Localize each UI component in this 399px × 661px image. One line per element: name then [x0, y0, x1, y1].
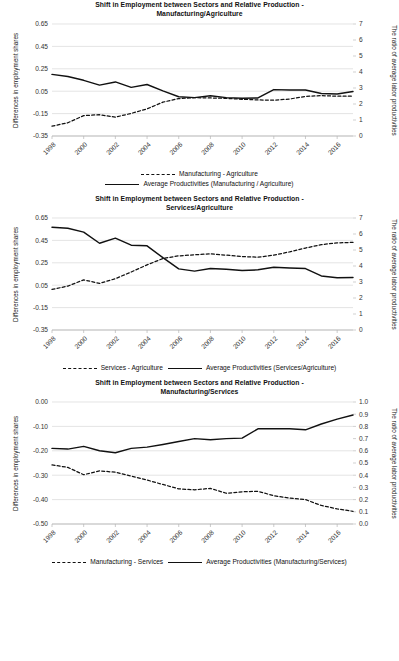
svg-text:2008: 2008 [200, 335, 216, 351]
figure-page: Shift in Employment between Sectors and … [0, 0, 399, 661]
svg-text:2002: 2002 [105, 141, 121, 157]
svg-text:5: 5 [359, 246, 363, 253]
svg-text:7: 7 [359, 20, 363, 27]
plot-area-2: -0.35-0.150.050.250.450.6501234567199820… [0, 212, 399, 362]
svg-text:2008: 2008 [200, 529, 216, 545]
legend-3-item-dashed: Manufacturing - Services [52, 557, 163, 567]
svg-text:5: 5 [359, 52, 363, 59]
dashed-line-swatch-icon [141, 174, 175, 175]
svg-text:1998: 1998 [41, 335, 57, 351]
chart-block-3: Shift in Employment between Sectors and … [0, 378, 399, 567]
legend-3: Manufacturing - Services Average Product… [0, 557, 399, 567]
svg-text:7: 7 [359, 214, 363, 221]
svg-text:0.2: 0.2 [359, 496, 368, 503]
legend-1-item-solid: Average Productivities (Manufacturing / … [105, 179, 293, 189]
svg-text:0.0: 0.0 [359, 520, 368, 527]
svg-text:0.65: 0.65 [35, 214, 48, 221]
svg-text:6: 6 [359, 36, 363, 43]
plot-area-1: -0.35-0.150.050.250.450.6501234567199820… [0, 18, 399, 168]
svg-text:0: 0 [359, 326, 363, 333]
svg-text:0.5: 0.5 [359, 459, 368, 466]
svg-text:0.1: 0.1 [359, 508, 368, 515]
svg-text:2006: 2006 [168, 335, 184, 351]
dashed-line-swatch-icon [52, 562, 86, 563]
svg-text:2014: 2014 [295, 335, 311, 351]
svg-text:0: 0 [359, 132, 363, 139]
plot-area-3: -0.50-0.40-0.30-0.20-0.100.000.00.10.20.… [0, 396, 399, 556]
right-axis-title: The ratio of average labor productivitie… [391, 218, 398, 330]
svg-text:2012: 2012 [263, 335, 279, 351]
svg-text:6: 6 [359, 230, 363, 237]
legend-2-row-1: Services - Agriculture Average Productiv… [0, 363, 399, 373]
svg-text:0.45: 0.45 [35, 43, 48, 50]
chart-block-1: Shift in Employment between Sectors and … [0, 0, 399, 189]
svg-text:-0.10: -0.10 [33, 423, 48, 430]
left-axis-title: Differences in employment shares [12, 402, 19, 524]
chart-title-3-line2: Manufacturing/Services [0, 387, 399, 396]
svg-text:1.0: 1.0 [359, 398, 368, 405]
svg-text:2016: 2016 [327, 335, 343, 351]
dashed-line-swatch-icon [63, 368, 97, 369]
legend-2: Services - Agriculture Average Productiv… [0, 363, 399, 373]
svg-text:2002: 2002 [105, 335, 121, 351]
svg-text:2004: 2004 [136, 141, 152, 157]
svg-text:2000: 2000 [73, 141, 89, 157]
legend-1-row-2: Average Productivities (Manufacturing / … [0, 179, 399, 189]
svg-text:2012: 2012 [263, 529, 279, 545]
svg-text:-0.35: -0.35 [33, 326, 48, 333]
svg-text:2004: 2004 [136, 335, 152, 351]
svg-text:0.05: 0.05 [35, 282, 48, 289]
svg-text:-0.15: -0.15 [33, 304, 48, 311]
chart-title-2-line1: Shift in Employment between Sectors and … [0, 194, 399, 203]
chart-title-3: Shift in Employment between Sectors and … [0, 378, 399, 396]
svg-text:2012: 2012 [263, 141, 279, 157]
legend-1-label-solid: Average Productivities (Manufacturing / … [143, 179, 293, 189]
svg-text:2: 2 [359, 100, 363, 107]
svg-text:0.3: 0.3 [359, 484, 368, 491]
svg-text:2006: 2006 [168, 529, 184, 545]
svg-text:2010: 2010 [231, 141, 247, 157]
svg-text:0.8: 0.8 [359, 423, 368, 430]
legend-1-label-dashed: Manufacturing - Agriculture [179, 169, 258, 179]
svg-text:2014: 2014 [295, 529, 311, 545]
legend-1-row-1: Manufacturing - Agriculture [0, 169, 399, 179]
chart-title-1-line1: Shift in Employment between Sectors and … [0, 0, 399, 9]
svg-text:0.4: 0.4 [359, 472, 368, 479]
legend-3-item-solid: Average Productivities (Manufacturing/Se… [168, 557, 347, 567]
svg-text:-0.35: -0.35 [33, 132, 48, 139]
svg-text:0.25: 0.25 [35, 65, 48, 72]
legend-2-item-solid: Average Productivities (Services/Agricul… [168, 363, 336, 373]
legend-3-label-dashed: Manufacturing - Services [90, 557, 163, 567]
chart-title-1: Shift in Employment between Sectors and … [0, 0, 399, 18]
svg-text:1: 1 [359, 116, 363, 123]
svg-text:0.7: 0.7 [359, 435, 368, 442]
chart-title-3-line1: Shift in Employment between Sectors and … [0, 378, 399, 387]
legend-2-label-dashed: Services - Agriculture [101, 363, 163, 373]
plot-svg-1: -0.35-0.150.050.250.450.6501234567199820… [0, 18, 399, 168]
solid-line-swatch-icon [168, 368, 202, 369]
plot-svg-2: -0.35-0.150.050.250.450.6501234567199820… [0, 212, 399, 362]
svg-text:-0.40: -0.40 [33, 496, 48, 503]
svg-text:0.65: 0.65 [35, 20, 48, 27]
chart-title-1-line2: Manufacturing/Agriculture [0, 9, 399, 18]
solid-line-swatch-icon [105, 184, 139, 185]
chart-title-2-line2: Services/Agriculture [0, 203, 399, 212]
legend-3-row-1: Manufacturing - Services Average Product… [0, 557, 399, 567]
legend-1: Manufacturing - Agriculture Average Prod… [0, 169, 399, 189]
svg-text:-0.20: -0.20 [33, 447, 48, 454]
svg-text:2016: 2016 [327, 141, 343, 157]
svg-text:2016: 2016 [327, 529, 343, 545]
svg-text:0.00: 0.00 [35, 398, 48, 405]
svg-text:4: 4 [359, 262, 363, 269]
legend-2-label-solid: Average Productivities (Services/Agricul… [206, 363, 336, 373]
legend-3-label-solid: Average Productivities (Manufacturing/Se… [206, 557, 347, 567]
svg-text:0.25: 0.25 [35, 259, 48, 266]
svg-text:2: 2 [359, 294, 363, 301]
right-axis-title: The ratio of average labor productivitie… [391, 402, 398, 524]
svg-text:2006: 2006 [168, 141, 184, 157]
chart-title-2: Shift in Employment between Sectors and … [0, 194, 399, 212]
svg-text:3: 3 [359, 84, 363, 91]
right-axis-title: The ratio of average labor productivitie… [391, 24, 398, 136]
svg-text:4: 4 [359, 68, 363, 75]
svg-text:2008: 2008 [200, 141, 216, 157]
